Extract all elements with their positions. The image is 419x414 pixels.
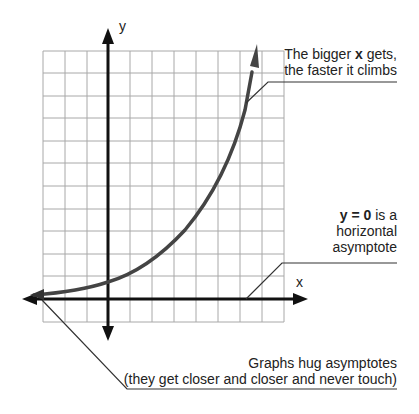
exponential-curve — [30, 44, 259, 300]
asymptote-annotation-line1: y = 0 is a — [197, 207, 397, 223]
growth-annotation-line1: The bigger x gets, — [197, 46, 397, 62]
asymptote-annotation: y = 0 is a horizontal asymptote — [197, 207, 397, 255]
asymptote-text-bold: y = 0 — [340, 207, 372, 223]
asymptote-annotation-line2: horizontal — [197, 223, 397, 239]
growth-annotation: The bigger x gets, the faster it climbs — [197, 46, 397, 78]
hug-annotation-line2: (they get closer and closer and never to… — [77, 371, 397, 387]
growth-text-bold: x — [355, 46, 363, 62]
asymptote-annotation-line3: asymptote — [197, 239, 397, 255]
growth-annotation-line2: the faster it climbs — [197, 62, 397, 78]
y-axis-label: y — [119, 18, 126, 34]
growth-text-suffix: gets, — [363, 46, 397, 62]
hug-annotation: Graphs hug asymptotes (they get closer a… — [77, 355, 397, 387]
hug-annotation-line1: Graphs hug asymptotes — [77, 355, 397, 371]
y-axis — [102, 28, 114, 341]
asymptote-text-suffix: is a — [371, 207, 397, 223]
x-axis-label: x — [296, 274, 303, 290]
growth-text-prefix: The bigger — [284, 46, 355, 62]
